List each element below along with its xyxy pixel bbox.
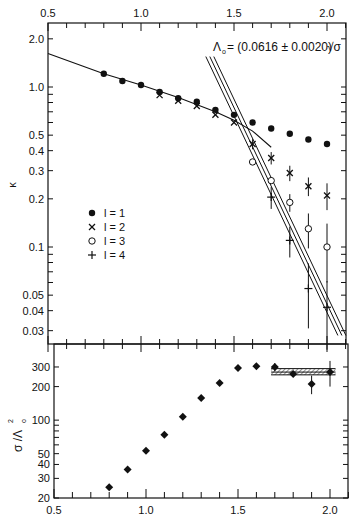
formula-lambda: Λ — [213, 40, 221, 54]
y-tick-label: 0.4 — [29, 145, 44, 157]
y-tick-label: 1.0 — [29, 81, 44, 93]
marker-filled-circle — [324, 141, 330, 147]
lower-plot-frame — [54, 344, 348, 498]
marker-filled-circle — [287, 131, 293, 137]
lower-data-points — [105, 361, 334, 491]
legend-label: l = 2 — [104, 221, 125, 233]
y-tick-label: 200 — [32, 381, 50, 393]
marker-filled-diamond — [252, 362, 260, 370]
lower-panel: 0.51.01.52.0 30020010050403020 σ /Λ o 2 — [7, 344, 348, 516]
marker-filled-circle — [119, 78, 125, 84]
formula-lambda-sub: o — [222, 48, 226, 55]
marker-filled-diamond — [234, 364, 242, 372]
fit-curve — [48, 53, 271, 147]
marker-filled-circle — [231, 112, 237, 118]
marker-filled-diamond — [197, 394, 205, 402]
marker-filled-diamond — [160, 431, 168, 439]
upper-y-axis-label: κ — [6, 182, 18, 188]
y-tick-label: 0.1 — [29, 241, 44, 253]
marker-filled-circle — [138, 82, 144, 88]
y-tick-label: 300 — [32, 361, 50, 373]
legend-label: l = 4 — [104, 249, 125, 261]
formula-sqrt-sigma: √σ — [327, 40, 342, 54]
x-tick-label: 0.5 — [46, 504, 61, 516]
y-tick-label: 0.2 — [29, 193, 44, 205]
hatched-band — [271, 369, 335, 375]
marker-filled-circle — [89, 210, 95, 216]
lower-ylabel-main: σ /Λ — [11, 430, 25, 452]
lower-y-axis-label: σ /Λ o 2 — [7, 419, 27, 452]
marker-open-circle — [249, 159, 255, 165]
scaling-line — [206, 57, 338, 336]
x-tick-label: 2.0 — [322, 504, 337, 516]
marker-filled-circle — [305, 136, 311, 142]
y-tick-label: 0.3 — [29, 165, 44, 177]
upper-x-ticks: 0.51.01.52.0 — [40, 7, 345, 352]
y-tick-label: 20 — [38, 492, 50, 504]
lower-ylabel-sup: 2 — [7, 419, 14, 423]
marker-filled-diamond — [105, 483, 113, 491]
legend: l = 1l = 2l = 3l = 4 — [88, 207, 125, 261]
upper-y-ticks: 2.01.00.50.40.30.20.10.050.040.03 — [23, 33, 346, 337]
lower-x-ticks: 0.51.01.52.0 — [46, 489, 348, 516]
y-tick-label: 0.04 — [23, 305, 44, 317]
x-tick-label: 0.5 — [40, 7, 55, 19]
y-tick-label: 30 — [38, 472, 50, 484]
marker-filled-diamond — [142, 447, 150, 455]
upper-plot-frame — [48, 23, 346, 344]
upper-data-points — [101, 71, 331, 350]
marker-filled-circle — [101, 71, 107, 77]
y-tick-label: 0.03 — [23, 325, 44, 337]
x-tick-label: 1.5 — [226, 7, 241, 19]
lower-ylabel-sub: o — [20, 419, 27, 423]
upper-panel: 0.51.01.52.0 2.01.00.50.40.30.20.10.050.… — [6, 7, 346, 352]
lower-y-ticks: 30020010050403020 — [32, 361, 348, 504]
marker-filled-diamond — [308, 380, 316, 388]
marker-open-circle — [287, 199, 293, 205]
y-tick-label: 40 — [38, 458, 50, 470]
scaling-line — [210, 57, 342, 336]
marker-open-circle — [324, 244, 330, 250]
lattice-chart: 0.51.01.52.0 2.01.00.50.40.30.20.10.050.… — [0, 0, 356, 527]
marker-filled-circle — [249, 119, 255, 125]
legend-label: l = 3 — [104, 235, 125, 247]
x-tick-label: 2.0 — [319, 7, 334, 19]
marker-filled-diamond — [124, 466, 132, 474]
legend-label: l = 1 — [104, 207, 125, 219]
x-tick-label: 1.0 — [133, 7, 148, 19]
marker-filled-circle — [268, 125, 274, 131]
x-tick-label: 1.5 — [230, 504, 245, 516]
chart-canvas: 0.51.01.52.0 2.01.00.50.40.30.20.10.050.… — [0, 0, 356, 527]
marker-open-circle — [89, 238, 95, 244]
marker-filled-diamond — [216, 379, 224, 387]
marker-open-circle — [305, 226, 311, 232]
marker-filled-diamond — [179, 413, 187, 421]
marker-open-circle — [268, 177, 274, 183]
x-tick-label: 1.0 — [138, 504, 153, 516]
y-tick-label: 0.5 — [29, 129, 44, 141]
y-tick-label: 0.05 — [23, 289, 44, 301]
upper-fit-lines — [48, 53, 346, 335]
formula-value: = (0.0616 ± 0.0020) — [227, 40, 332, 54]
y-tick-label: 2.0 — [29, 33, 44, 45]
y-tick-label: 100 — [32, 414, 50, 426]
formula-annotation: Λ o = (0.0616 ± 0.0020) √σ — [213, 40, 342, 55]
